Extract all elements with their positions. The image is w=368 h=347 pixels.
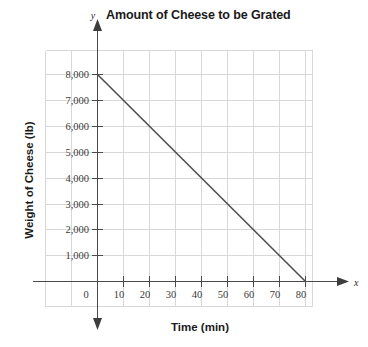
x-axis-tick-labels: 10 20 30 40 50 60 70 80 <box>114 289 307 300</box>
x-axis-arrow-right <box>337 277 349 286</box>
x-tick-70: 70 <box>270 289 281 300</box>
y-tick-3000: 3,000 <box>65 199 89 210</box>
x-tick-40: 40 <box>192 289 203 300</box>
x-tick-30: 30 <box>166 289 177 300</box>
y-axis-arrow-down <box>93 318 102 330</box>
y-tick-4000: 4,000 <box>65 173 89 184</box>
x-axis-title: Time (min) <box>171 321 229 333</box>
y-tick-1000: 1,000 <box>65 250 89 261</box>
y-tick-7000: 7,000 <box>65 95 89 106</box>
x-axis-letter: x <box>353 277 359 288</box>
chart-title: Amount of Cheese to be Grated <box>106 8 291 22</box>
y-axis-letter: y <box>90 10 96 21</box>
y-axis-tick-labels: 8,000 7,000 6,000 5,000 4,000 3,000 2,00… <box>65 69 89 261</box>
y-tick-6000: 6,000 <box>65 121 89 132</box>
origin-label: 0 <box>83 289 88 300</box>
x-tick-50: 50 <box>218 289 229 300</box>
x-tick-10: 10 <box>114 289 125 300</box>
chart-canvas: 8,000 7,000 6,000 5,000 4,000 3,000 2,00… <box>0 0 368 347</box>
y-tick-8000: 8,000 <box>65 69 89 80</box>
y-tick-5000: 5,000 <box>65 147 89 158</box>
x-tick-80: 80 <box>296 289 307 300</box>
y-tick-2000: 2,000 <box>65 224 89 235</box>
y-axis-title: Weight of Cheese (lb) <box>23 121 35 239</box>
x-tick-20: 20 <box>140 289 151 300</box>
x-tick-60: 60 <box>244 289 255 300</box>
